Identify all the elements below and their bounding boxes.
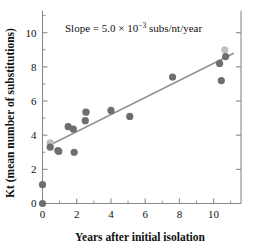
y-tick-label: 0 bbox=[31, 197, 37, 209]
data-point bbox=[83, 109, 90, 116]
data-point bbox=[218, 77, 225, 84]
axes bbox=[43, 11, 242, 204]
y-tick-label: 10 bbox=[26, 27, 38, 39]
y-tick-label: 8 bbox=[31, 61, 37, 73]
x-tick-label: 6 bbox=[142, 208, 148, 220]
axis-ticks bbox=[43, 16, 242, 204]
y-tick-label: 6 bbox=[31, 95, 37, 107]
regression-line-segment bbox=[48, 54, 233, 146]
data-point bbox=[221, 46, 228, 53]
data-point bbox=[107, 107, 114, 114]
x-tick-label: 2 bbox=[74, 208, 80, 220]
data-point bbox=[82, 117, 89, 124]
x-tick-label: 8 bbox=[177, 208, 183, 220]
y-axis-title: Kt (mean number of substitutions) bbox=[4, 28, 17, 198]
slope-annotation: Slope = 5.0 × 10−3 subs/nt/year bbox=[65, 21, 202, 34]
data-point bbox=[126, 113, 133, 120]
data-point bbox=[39, 200, 46, 207]
data-point bbox=[222, 53, 229, 60]
regression-line bbox=[48, 54, 233, 146]
data-point bbox=[55, 148, 62, 155]
y-tick-label: 4 bbox=[31, 129, 37, 141]
data-point bbox=[47, 144, 54, 151]
x-tick-label: 10 bbox=[208, 208, 220, 220]
data-point bbox=[70, 126, 77, 133]
data-point bbox=[39, 181, 46, 188]
x-axis-title: Years after initial isolation bbox=[75, 231, 205, 243]
chart-canvas: 02468100246810 Slope = 5.0 × 10−3 subs/n… bbox=[0, 0, 257, 247]
data-point bbox=[71, 149, 78, 156]
axis-tick-labels: 02468100246810 bbox=[26, 27, 220, 220]
x-tick-label: 0 bbox=[40, 208, 46, 220]
data-point bbox=[216, 60, 223, 67]
x-tick-label: 4 bbox=[108, 208, 114, 220]
scatter-chart-figure: 02468100246810 Slope = 5.0 × 10−3 subs/n… bbox=[0, 0, 257, 247]
y-tick-label: 2 bbox=[31, 163, 37, 175]
data-point bbox=[169, 74, 176, 81]
